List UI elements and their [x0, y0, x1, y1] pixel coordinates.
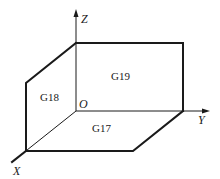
x-axis: X — [12, 111, 76, 178]
plane-g18: G18 — [26, 43, 76, 151]
plane-g17-label: G17 — [92, 122, 111, 134]
z-axis: Z — [74, 9, 89, 111]
plane-g19: G19 — [76, 43, 183, 111]
coordinate-planes-diagram: Z Y X O G19 G18 G17 — [0, 0, 220, 179]
plane-g19-label: G19 — [111, 70, 130, 82]
y-axis-label: Y — [198, 113, 206, 127]
z-axis-label: Z — [81, 12, 88, 26]
x-axis-label: X — [12, 164, 21, 178]
z-arrow-icon — [74, 9, 79, 17]
plane-g17: G17 — [26, 111, 183, 151]
origin-label: O — [79, 97, 88, 111]
plane-g18-label: G18 — [40, 91, 59, 103]
